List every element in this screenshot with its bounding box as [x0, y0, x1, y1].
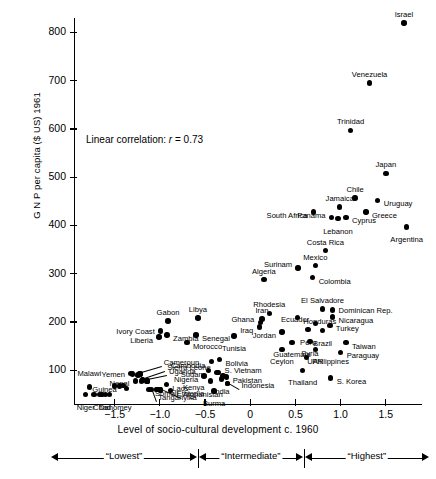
- data-point: [145, 378, 150, 383]
- point-label: Malawi: [78, 369, 102, 378]
- data-point: [363, 209, 368, 214]
- data-point: [320, 328, 325, 333]
- point-label: Indonesia: [241, 381, 274, 390]
- x-tick-label: 1.5: [366, 408, 406, 420]
- point-label: Iraq: [240, 326, 253, 335]
- data-point: [164, 382, 169, 387]
- data-point: [279, 329, 284, 334]
- point-label: Algeria: [252, 267, 276, 276]
- data-point: [367, 80, 372, 85]
- y-tick: [70, 128, 77, 129]
- y-tick: [70, 32, 77, 33]
- data-point: [83, 392, 88, 397]
- x-tick: [295, 399, 296, 406]
- data-point: [164, 332, 169, 337]
- correlation-value: = 0.73: [172, 134, 203, 145]
- point-label: Cyprus: [352, 216, 376, 225]
- y-tick: [70, 225, 77, 226]
- data-point: [124, 386, 129, 391]
- y-tick: [70, 321, 77, 322]
- y-tick-label: 200: [22, 315, 66, 327]
- y-tick: [70, 177, 77, 178]
- category-divider: [198, 449, 199, 468]
- arrow-left-icon: [199, 453, 206, 461]
- point-label: Japan: [375, 160, 396, 169]
- point-label: Panama: [297, 211, 325, 220]
- point-label: Dahomey: [99, 403, 132, 412]
- point-label: Ivory Coast: [116, 327, 154, 336]
- data-point: [208, 378, 213, 383]
- point-label: Mexico: [303, 253, 327, 262]
- arrow-left-icon: [51, 453, 58, 461]
- x-tick: [250, 399, 251, 406]
- data-point: [310, 275, 315, 280]
- data-point: [295, 265, 300, 270]
- point-label: Lebanon: [323, 227, 353, 236]
- data-point: [338, 350, 343, 355]
- data-point: [156, 334, 161, 339]
- point-label: Ecuador: [281, 315, 309, 324]
- data-point: [91, 392, 96, 397]
- point-label: S. Vietnam: [225, 366, 262, 375]
- x-axis-label: Level of socio-cultural development c. 1…: [0, 424, 436, 435]
- data-point: [193, 332, 198, 337]
- arrow-left-icon: [305, 453, 312, 461]
- y-tick-label: 800: [22, 25, 66, 37]
- data-point: [305, 327, 310, 332]
- data-point: [289, 340, 294, 345]
- data-point: [307, 339, 312, 344]
- y-tick-label: 400: [22, 218, 66, 230]
- point-label: Morocco: [193, 342, 222, 351]
- data-point: [195, 315, 200, 320]
- data-point: [313, 263, 318, 268]
- y-tick-label: 300: [22, 267, 66, 279]
- data-point: [165, 318, 170, 323]
- point-label: Dominican Rep.: [339, 306, 393, 315]
- point-label: Venezuela: [352, 70, 387, 79]
- point-label: Jamaica: [326, 194, 354, 203]
- point-label: Iran: [255, 306, 268, 315]
- x-tick-label: −1.0: [140, 408, 180, 420]
- y-tick: [70, 273, 77, 274]
- point-label: Israel: [395, 10, 414, 19]
- point-label: Argentina: [390, 235, 423, 244]
- point-label: Turkey: [336, 324, 359, 333]
- point-label: Tunisia: [222, 344, 246, 353]
- point-label: Libya: [189, 305, 207, 314]
- category-divider: [304, 449, 305, 468]
- data-point: [133, 378, 138, 383]
- data-point: [220, 373, 225, 378]
- x-tick-label: 0.5: [275, 408, 315, 420]
- y-tick-label: 600: [22, 122, 66, 134]
- data-point: [343, 340, 348, 345]
- point-label: Trinidad: [337, 117, 364, 126]
- data-point: [327, 323, 332, 328]
- data-point: [348, 128, 353, 133]
- data-point: [261, 277, 266, 282]
- data-point: [404, 224, 409, 229]
- point-label: Afghanistan: [183, 390, 223, 399]
- y-tick: [70, 80, 77, 81]
- category-band-label: “Highest”: [346, 450, 389, 461]
- point-label: Uganda: [169, 367, 196, 376]
- category-band-label: “Lowest”: [104, 450, 144, 461]
- arrow-right-icon: [190, 453, 197, 461]
- data-point: [343, 215, 348, 220]
- category-band-label: “Intermediate”: [219, 450, 282, 461]
- point-label: Costa Rica: [307, 238, 344, 247]
- y-axis-label: G N P per capita ($ US) 1961: [31, 76, 42, 236]
- y-tick: [70, 370, 77, 371]
- x-tick-label: 0: [230, 408, 270, 420]
- point-label: Philippines: [312, 357, 349, 366]
- y-tick-label: 500: [22, 170, 66, 182]
- x-tick-label: −0.5: [185, 408, 225, 420]
- data-point: [279, 347, 284, 352]
- x-tick: [385, 399, 386, 406]
- y-tick-label: 100: [22, 363, 66, 375]
- data-point: [117, 383, 122, 388]
- point-label: Taiwan: [352, 342, 376, 351]
- data-point: [335, 216, 340, 221]
- data-point: [329, 215, 334, 220]
- data-point: [375, 198, 380, 203]
- data-point: [214, 370, 219, 375]
